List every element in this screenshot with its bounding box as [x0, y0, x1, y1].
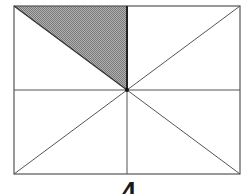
center-point [125, 88, 129, 92]
diagonal-center-to-bottom-right [127, 90, 240, 174]
figure-label: 4 [119, 178, 139, 194]
divided-rectangle-diagram [0, 0, 245, 194]
diagonal-top-right-to-center [127, 6, 240, 90]
diagonal-center-to-bottom-left [14, 90, 127, 174]
